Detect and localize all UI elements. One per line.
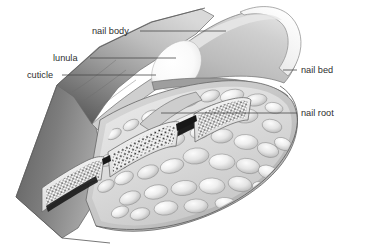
label-cuticle: cuticle (27, 70, 53, 80)
anatomy-illustration: nail body lunula cuticle nail bed nail r… (0, 0, 365, 247)
label-lunula: lunula (53, 53, 78, 63)
fingernail-anatomy-figure: nail body lunula cuticle nail bed nail r… (0, 0, 365, 247)
label-nail-body: nail body (92, 26, 129, 36)
label-nail-bed: nail bed (301, 65, 333, 75)
label-nail-root: nail root (301, 108, 334, 118)
